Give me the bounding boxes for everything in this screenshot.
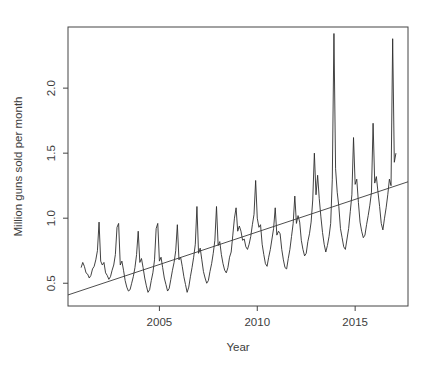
series-line — [81, 34, 396, 293]
y-axis-title: Million guns sold per month — [12, 97, 24, 237]
chart-canvas: 2005201020150.51.01.52.0 Year Million gu… — [0, 0, 429, 370]
gun-sales-time-series-plot: 2005201020150.51.01.52.0 Year Million gu… — [0, 0, 429, 370]
y-tick-label: 1.0 — [45, 210, 57, 226]
y-tick-label: 0.5 — [45, 275, 57, 291]
x-tick-label: 2015 — [342, 316, 368, 328]
plot-box — [68, 27, 408, 306]
x-axis-title: Year — [226, 341, 249, 353]
y-tick-label: 1.5 — [45, 145, 57, 161]
x-tick-label: 2010 — [244, 316, 270, 328]
y-tick-label: 2.0 — [45, 80, 57, 96]
x-tick-label: 2005 — [147, 316, 173, 328]
plot-layer: 2005201020150.51.01.52.0 — [45, 27, 408, 328]
